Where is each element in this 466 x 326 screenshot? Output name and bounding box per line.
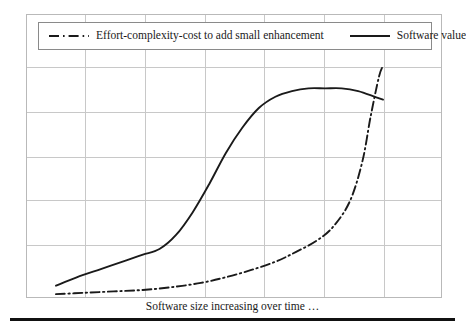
bottom-horizontal-rule (10, 318, 455, 321)
legend-entry-software-value: Software value (350, 30, 466, 42)
legend-label-software-value: Software value (397, 30, 466, 42)
series-line-software-value (56, 88, 383, 286)
solid-line-swatch (350, 30, 390, 42)
dash-dot-line-swatch (49, 30, 89, 42)
x-axis-label: Software size increasing over time … (0, 298, 465, 314)
chart-legend: Effort-complexity-cost to add small enha… (38, 22, 432, 50)
series-plot (27, 15, 441, 297)
series-line-effort-complexity-cost (56, 66, 383, 294)
legend-label-effort-complexity-cost: Effort-complexity-cost to add small enha… (96, 30, 324, 42)
legend-entry-effort-complexity-cost: Effort-complexity-cost to add small enha… (49, 30, 324, 42)
plot-area (26, 14, 442, 298)
